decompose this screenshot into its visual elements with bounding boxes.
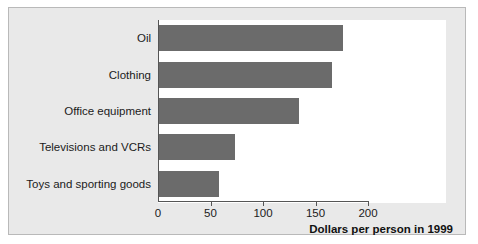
category-label: Televisions and VCRs xyxy=(0,134,151,160)
bar xyxy=(159,25,343,51)
axis-tick xyxy=(368,201,369,206)
value-axis-title: Dollars per person in 1999 xyxy=(9,223,453,235)
category-label: Office equipment xyxy=(0,98,151,124)
bar-row: Oil xyxy=(159,25,343,51)
axis-tick-label: 0 xyxy=(155,207,161,219)
category-label: Clothing xyxy=(0,62,151,88)
axis-tick xyxy=(263,201,264,206)
chart-figure: OilClothingOffice equipmentTelevisions a… xyxy=(8,7,466,235)
bar-row: Office equipment xyxy=(159,98,299,124)
bar-row: Televisions and VCRs xyxy=(159,134,235,160)
category-label: Toys and sporting goods xyxy=(0,171,151,197)
bar xyxy=(159,62,332,88)
bar xyxy=(159,171,219,197)
axis-tick xyxy=(316,201,317,206)
axis-tick-label: 200 xyxy=(358,207,377,219)
axis-tick-label: 50 xyxy=(204,207,217,219)
bar xyxy=(159,98,299,124)
bar-row: Toys and sporting goods xyxy=(159,171,219,197)
category-label: Oil xyxy=(0,25,151,51)
bar-row: Clothing xyxy=(159,62,332,88)
axis-tick-label: 150 xyxy=(306,207,325,219)
axis-tick xyxy=(211,201,212,206)
axis-tick-label: 100 xyxy=(253,207,272,219)
bar xyxy=(159,134,235,160)
